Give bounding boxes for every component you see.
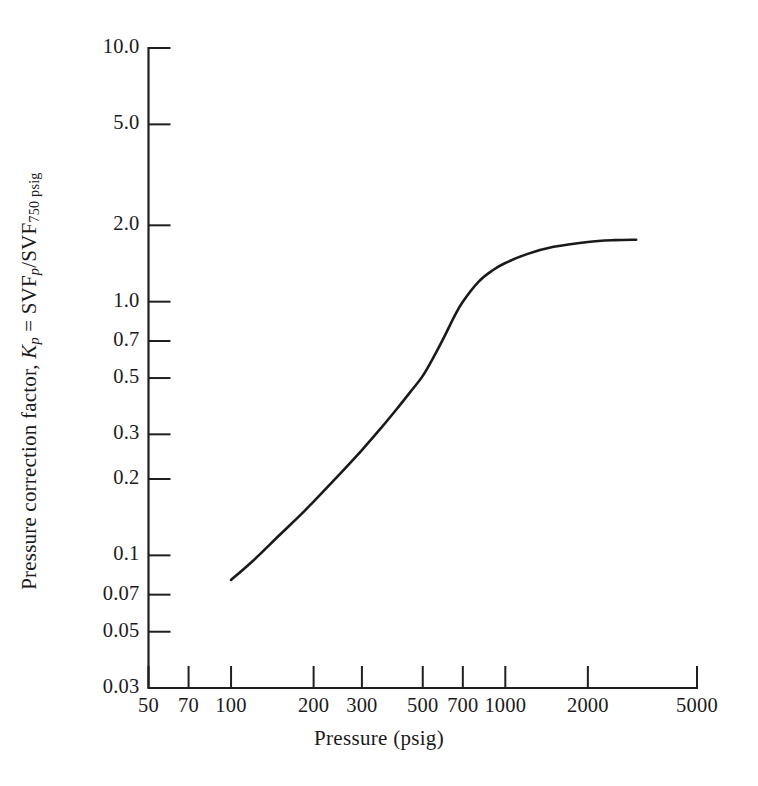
x-axis-title: Pressure (psig) bbox=[0, 726, 758, 751]
y-tick-label-0.1: 0.1 bbox=[113, 542, 139, 565]
y-axis-title-container: Pressure correction factor, Kp = SVFp/SV… bbox=[0, 0, 60, 786]
y-tick-label-0.07: 0.07 bbox=[103, 582, 140, 605]
curve-pressure-correction-factor bbox=[231, 240, 636, 580]
y-tick-label-0.3: 0.3 bbox=[113, 421, 139, 444]
y-tick-label-2.0: 2.0 bbox=[113, 212, 139, 235]
x-tick-label-5000: 5000 bbox=[637, 694, 757, 717]
y-axis-title: Pressure correction factor, Kp = SVFp/SV… bbox=[17, 21, 43, 741]
axis-spines bbox=[149, 48, 698, 688]
axes bbox=[149, 48, 698, 688]
y-tick-label-0.7: 0.7 bbox=[113, 328, 139, 351]
axis-ticks bbox=[149, 48, 698, 688]
y-tick-label-10.0: 10.0 bbox=[103, 35, 140, 58]
y-axis-symbol: K bbox=[17, 345, 41, 359]
y-tick-label-0.2: 0.2 bbox=[113, 466, 139, 489]
y-tick-label-5.0: 5.0 bbox=[113, 111, 139, 134]
x-tick-label-2000: 2000 bbox=[528, 694, 648, 717]
y-tick-label-0.5: 0.5 bbox=[113, 365, 139, 388]
y-tick-label-0.05: 0.05 bbox=[103, 619, 140, 642]
chart-figure: 0.030.050.070.10.20.30.50.71.02.05.010.0… bbox=[0, 0, 758, 786]
y-tick-label-1.0: 1.0 bbox=[113, 289, 139, 312]
data-curve bbox=[231, 240, 636, 580]
